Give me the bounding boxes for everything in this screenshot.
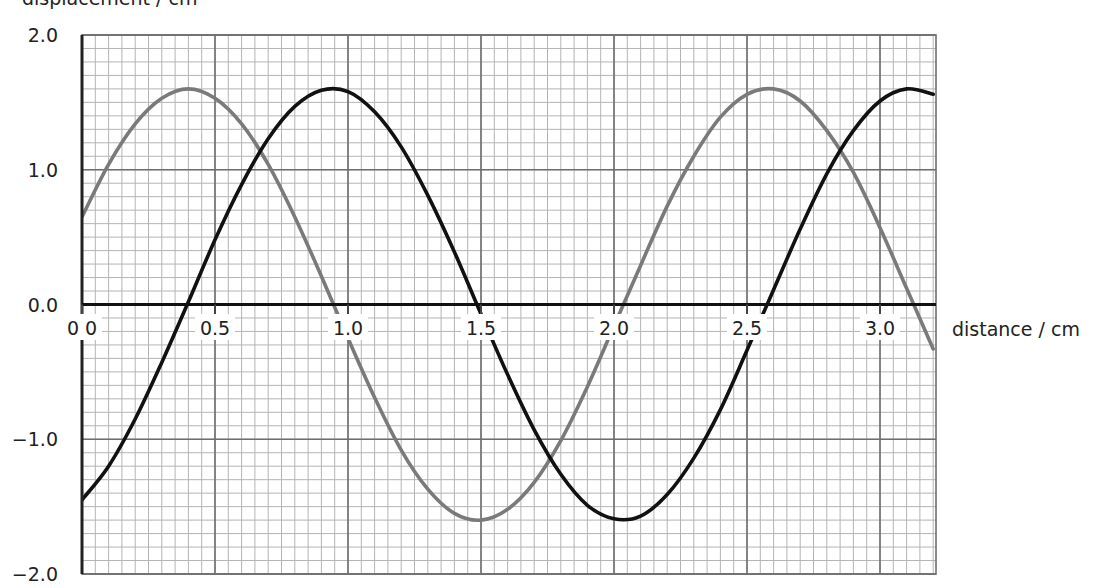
wave-displacement-chart: displacement / cm 2.01.00.0−1.0−2.0 0.00… [0, 0, 1114, 588]
x-axis-title: distance / cm [952, 318, 1080, 340]
y-tick-labels: 2.01.00.0−1.0−2.0 [12, 24, 58, 585]
y-tick-label: 2.0 [28, 24, 58, 46]
x-tick-label: 3.0 [865, 317, 895, 339]
y-tick-label: 0.0 [28, 294, 58, 316]
y-tick-label: −2.0 [12, 563, 58, 585]
x-tick-label: 1.0 [333, 317, 363, 339]
y-tick-label: 1.0 [28, 159, 58, 181]
y-tick-label: −1.0 [12, 428, 58, 450]
x-tick-label: 2.0 [599, 317, 629, 339]
x-tick-label: 2.5 [732, 317, 762, 339]
x-tick-label: 0.5 [200, 317, 230, 339]
y-axis-title: displacement / cm [22, 0, 197, 9]
x-tick-label: 1.5 [466, 317, 496, 339]
